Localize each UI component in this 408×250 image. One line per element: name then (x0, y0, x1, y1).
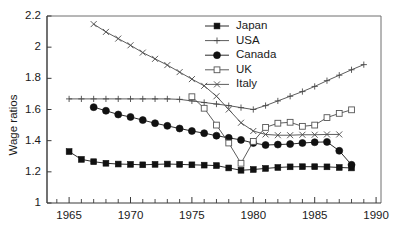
legend-item-japan: Japan (205, 19, 267, 31)
x-tick-label: 1970 (118, 209, 144, 221)
x-tick-label: 1980 (240, 209, 266, 221)
x-tick-label: 1985 (302, 209, 328, 221)
series-italy (91, 21, 343, 138)
legend-item-canada: Canada (205, 48, 277, 60)
y-tick-label: 2.2 (25, 9, 41, 21)
legend-label: Japan (236, 19, 267, 31)
x-tick-label: 1975 (179, 209, 205, 221)
legend-item-italy: Italy (205, 77, 257, 89)
x-tick-label: 1965 (56, 209, 82, 221)
y-tick-label: 1 (35, 196, 41, 208)
series-canada (90, 104, 355, 169)
y-tick-label: 1.8 (25, 71, 41, 83)
x-tick-label: 1990 (363, 209, 389, 221)
series-uk (189, 94, 354, 166)
x-axis-ticks: 196519701975198019851990 (56, 197, 389, 221)
y-tick-label: 1.2 (25, 165, 41, 177)
wage-ratios-chart: 11.21.41.61.822.2 1965197019751980198519… (0, 0, 408, 250)
legend-item-uk: UK (205, 63, 252, 75)
y-tick-label: 2 (35, 40, 41, 52)
series-layer (66, 21, 367, 173)
legend-label: UK (236, 63, 252, 75)
legend-label: USA (236, 34, 260, 46)
series-japan (66, 149, 354, 174)
legend-label: Italy (236, 77, 257, 89)
y-axis-label: Wage ratios (7, 94, 19, 155)
legend-item-usa: USA (205, 34, 260, 46)
chart-canvas: 11.21.41.61.822.2 1965197019751980198519… (0, 0, 408, 250)
y-tick-label: 1.6 (25, 103, 41, 115)
plot-frame (47, 16, 381, 203)
y-tick-label: 1.4 (25, 134, 42, 146)
legend-label: Canada (236, 48, 277, 60)
chart-legend: JapanUSACanadaUKItaly (205, 19, 277, 89)
